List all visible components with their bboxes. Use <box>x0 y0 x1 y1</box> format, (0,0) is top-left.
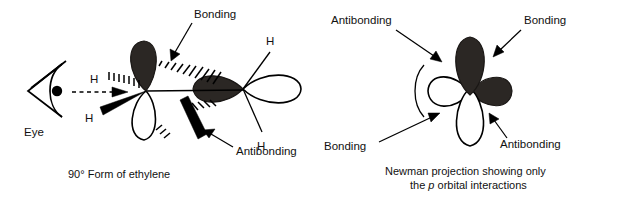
antibonding-label-left: Antibonding <box>236 145 297 157</box>
antibonding-label-top-left: Antibonding <box>331 14 392 26</box>
hydrogen-label-top-right: H <box>266 35 274 47</box>
left-antibonding-annotation: Antibonding <box>203 129 297 157</box>
bonding-arrow-top-right <box>500 30 521 50</box>
antibonding-label-bottom-right: Antibonding <box>500 138 561 150</box>
left-carbon-lobe-empty <box>132 91 155 140</box>
figure-canvas: Eye H H <box>0 0 619 199</box>
caption-orbital-letter: p <box>427 179 434 191</box>
left-panel-ethylene: Eye H H <box>24 8 301 180</box>
caption-pre: the <box>410 179 428 191</box>
hydrogen-label-bottom-left: H <box>85 112 93 124</box>
line-of-sight-arrow <box>72 87 128 97</box>
newman-antibonding-bottom-right-annotation: Antibonding <box>489 113 561 150</box>
right-carbon-lobe-filled <box>193 76 243 102</box>
newman-bonding-bottom-left-annotation: Bonding <box>324 113 440 152</box>
antibonding-arrow-top-left <box>396 30 434 56</box>
right-carbon-lobe-empty <box>243 75 301 103</box>
bonding-arrow-bottom-left <box>379 117 432 142</box>
bonding-label-top-right: Bonding <box>524 14 566 26</box>
antibonding-arrow-bottom-right <box>494 120 507 138</box>
antibonding-overlap-hashes-lower <box>156 125 170 138</box>
bonding-arrowhead-top-right <box>493 45 504 57</box>
antibonding-arrowhead-bottom-right <box>489 113 499 124</box>
bonding-label-left: Bonding <box>194 8 236 20</box>
left-panel-caption: 90° Form of ethylene <box>68 168 170 180</box>
bonding-arrow-left <box>174 23 192 54</box>
right-panel-caption-line2: the p orbital interactions <box>410 179 527 191</box>
left-bonding-annotation: Bonding <box>170 8 236 61</box>
bonding-arrowhead-left <box>170 49 180 61</box>
newman-bonding-top-right-annotation: Bonding <box>493 14 566 57</box>
back-orbital-arc <box>415 65 424 117</box>
orbital-interaction-figure: Eye H H <box>0 0 619 199</box>
antibonding-arrowhead-top-left <box>430 51 442 62</box>
antibonding-arrow-left <box>211 134 233 147</box>
pupil-icon <box>52 86 62 96</box>
right-panel-caption-line1: Newman projection showing only <box>385 165 546 177</box>
right-panel-newman: Antibonding Bonding Bonding Antibonding <box>324 14 566 191</box>
caption-post: orbital interactions <box>434 179 527 191</box>
hydrogen-label-top-left: H <box>90 73 98 85</box>
bonding-label-bottom-left: Bonding <box>324 140 366 152</box>
bonding-arrowhead-bottom-left <box>428 113 440 122</box>
eye-icon <box>28 61 66 117</box>
newman-antibonding-top-left-annotation: Antibonding <box>331 14 442 62</box>
antibonding-bold-bar <box>180 96 207 139</box>
eye-label: Eye <box>24 126 44 138</box>
